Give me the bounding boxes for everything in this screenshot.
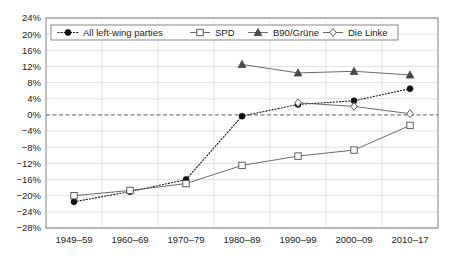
- vertical-gridlines: [102, 18, 382, 228]
- x-axis-tick-label: 2010–17: [392, 234, 429, 245]
- data-point-marker: [350, 67, 358, 74]
- series-line: [74, 125, 410, 195]
- y-axis-tick-label: 4%: [27, 93, 41, 104]
- y-axis-tick-label: −28%: [16, 222, 41, 233]
- y-axis-tick-label: 8%: [27, 77, 41, 88]
- line-chart: 24%20%16%12%8%4%0%−4%−8%−12%−16%−20%−24%…: [0, 0, 468, 259]
- data-point-marker: [183, 180, 189, 186]
- data-point-marker: [407, 110, 414, 118]
- series-spd: [71, 122, 413, 199]
- legend-label: All left-wing parties: [83, 27, 163, 38]
- legend-marker-sample: [197, 29, 203, 35]
- x-axis-tick-label: 1949–59: [56, 234, 93, 245]
- y-axis-tick-label: −4%: [22, 125, 42, 136]
- y-axis-tick-label: −16%: [16, 174, 41, 185]
- data-series-layer: [71, 60, 414, 204]
- data-point-marker: [239, 113, 245, 119]
- y-axis-tick-label: −24%: [16, 206, 41, 217]
- y-axis-tick-label: −12%: [16, 158, 41, 169]
- legend-label: B90/Grüne: [273, 27, 319, 38]
- y-axis-tick-label: 0%: [27, 109, 41, 120]
- y-axis-tick-label: 24%: [22, 12, 42, 23]
- series-all-left-wing-parties: [71, 86, 413, 205]
- data-point-marker: [238, 60, 246, 67]
- data-point-marker: [407, 122, 413, 128]
- chart-container: 24%20%16%12%8%4%0%−4%−8%−12%−16%−20%−24%…: [0, 0, 468, 259]
- data-point-marker: [71, 199, 77, 205]
- x-axis-tick-label: 1960–69: [112, 234, 149, 245]
- legend-marker-sample: [65, 30, 71, 36]
- y-axis-tick-labels: 24%20%16%12%8%4%0%−4%−8%−12%−16%−20%−24%…: [16, 12, 41, 233]
- data-point-marker: [351, 147, 357, 153]
- data-point-marker: [295, 153, 301, 159]
- y-axis-tick-label: −8%: [22, 142, 42, 153]
- legend-label: SPD: [215, 27, 235, 38]
- x-axis-tick-labels: 1949–591960–691970–791980–891990–992000–…: [56, 234, 429, 245]
- chart-legend[interactable]: All left-wing partiesSPDB90/GrüneDie Lin…: [51, 25, 398, 40]
- x-axis-tick-label: 1970–79: [168, 234, 205, 245]
- y-axis-tick-label: 16%: [22, 45, 42, 56]
- x-axis-tick-label: 1990–99: [280, 234, 317, 245]
- y-axis-tick-label: −20%: [16, 190, 41, 201]
- x-axis-tick-label: 2000–09: [336, 234, 373, 245]
- data-point-marker: [407, 86, 413, 92]
- y-axis-tick-label: 20%: [22, 29, 42, 40]
- series-line: [74, 89, 410, 202]
- data-point-marker: [127, 187, 133, 193]
- data-point-marker: [71, 192, 77, 198]
- data-point-marker: [351, 102, 358, 110]
- x-axis-tick-label: 1980–89: [224, 234, 261, 245]
- data-point-marker: [239, 162, 245, 168]
- y-axis-tick-label: 12%: [22, 61, 42, 72]
- legend-label: Die Linke: [348, 27, 388, 38]
